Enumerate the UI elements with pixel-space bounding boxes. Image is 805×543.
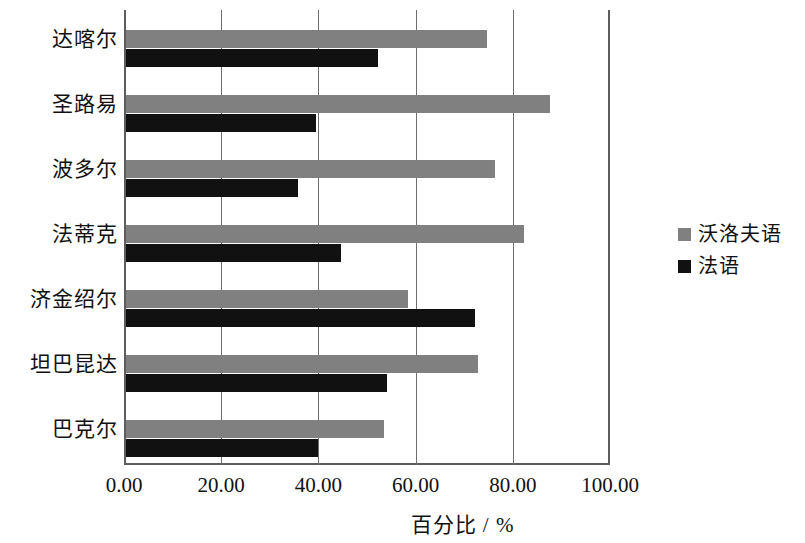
bar [126, 439, 318, 457]
category-label: 巴克尔 [6, 419, 118, 440]
bar [126, 114, 316, 132]
legend-label: 法语 [698, 256, 740, 276]
category-label: 波多尔 [6, 159, 118, 180]
bar [126, 309, 475, 327]
bar [126, 420, 384, 438]
bar [126, 355, 478, 373]
x-tick-label: 40.00 [273, 474, 363, 496]
bar [126, 160, 495, 178]
bar-group [126, 343, 612, 408]
bar-group [126, 148, 612, 213]
legend: 沃洛夫语法语 [678, 218, 805, 282]
bar [126, 290, 408, 308]
x-axis-title: 百分比 / % [0, 508, 805, 538]
bar-group [126, 18, 612, 83]
bar [126, 179, 298, 197]
legend-item[interactable]: 法语 [678, 250, 805, 282]
category-axis-labels: 达喀尔圣路易波多尔法蒂克济金绍尔坦巴昆达巴克尔 [0, 0, 118, 462]
bar [126, 374, 387, 392]
bar-group [126, 83, 612, 148]
bar-group [126, 408, 612, 473]
bar [126, 225, 524, 243]
category-label: 圣路易 [6, 94, 118, 115]
category-label: 达喀尔 [6, 29, 118, 50]
bar [126, 49, 378, 67]
x-tick-label: 20.00 [176, 474, 266, 496]
bar-chart: 达喀尔圣路易波多尔法蒂克济金绍尔坦巴昆达巴克尔 0.0020.0040.0060… [0, 0, 805, 543]
bar [126, 244, 341, 262]
x-tick-label: 60.00 [371, 474, 461, 496]
category-label: 法蒂克 [6, 224, 118, 245]
legend-swatch-icon [678, 228, 691, 241]
bar [126, 95, 550, 113]
category-label: 济金绍尔 [6, 289, 118, 310]
x-tick-label: 0.00 [79, 474, 169, 496]
category-label: 坦巴昆达 [6, 354, 118, 375]
bar-group [126, 213, 612, 278]
legend-swatch-icon [678, 260, 691, 273]
x-tick-label: 80.00 [468, 474, 558, 496]
bar [126, 30, 487, 48]
legend-label: 沃洛夫语 [698, 224, 782, 244]
x-tick-label: 100.00 [565, 474, 655, 496]
plot-area [124, 10, 610, 465]
legend-item[interactable]: 沃洛夫语 [678, 218, 805, 250]
bar-group [126, 278, 612, 343]
